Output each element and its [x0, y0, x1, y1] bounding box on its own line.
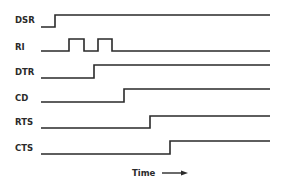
waveform-rts: [41, 116, 270, 128]
waveform-dsr: [41, 15, 270, 27]
timing-diagram-canvas: DSR RI DTR CD RTS CTS Time: [0, 0, 283, 182]
signal-label-cts: CTS: [15, 143, 33, 153]
time-axis: Time: [132, 168, 188, 178]
signal-rts: RTS: [15, 116, 270, 128]
signal-label-ri: RI: [15, 42, 25, 52]
timing-diagram: DSR RI DTR CD RTS CTS Time: [0, 0, 283, 182]
waveform-ri: [41, 39, 270, 51]
signal-dtr: DTR: [15, 65, 270, 78]
time-axis-label: Time: [132, 168, 156, 178]
signal-ri: RI: [15, 39, 270, 52]
signal-label-dsr: DSR: [15, 15, 35, 25]
signal-label-dtr: DTR: [15, 67, 35, 77]
signal-dsr: DSR: [15, 15, 270, 27]
signal-cd: CD: [15, 89, 270, 103]
waveform-cts: [41, 141, 270, 154]
waveform-dtr: [41, 65, 270, 78]
signal-label-cd: CD: [15, 93, 28, 103]
signal-label-rts: RTS: [15, 117, 33, 127]
signal-cts: CTS: [15, 141, 270, 154]
waveform-cd: [41, 89, 270, 102]
right-arrow-icon: [162, 171, 188, 176]
